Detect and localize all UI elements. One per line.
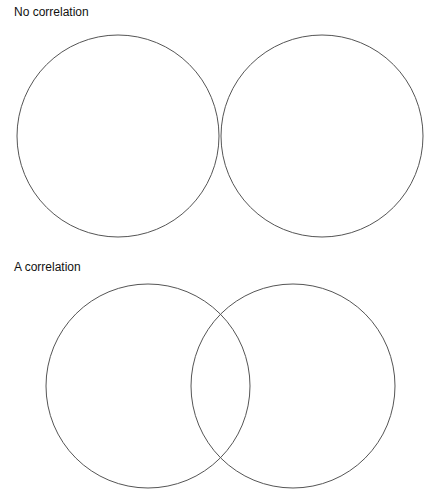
venn-circle-no-correlation-1 (17, 35, 219, 237)
venn-circle-correlation-2 (191, 284, 395, 488)
venn-circle-correlation-1 (46, 284, 250, 488)
venn-diagram-canvas (0, 0, 436, 504)
venn-circle-no-correlation-2 (221, 35, 423, 237)
